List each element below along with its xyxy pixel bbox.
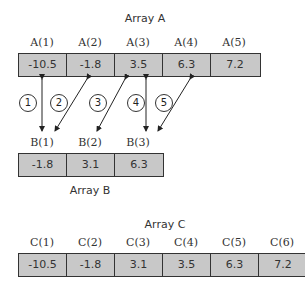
index-label: B(1)	[18, 136, 66, 149]
index-label: B(3)	[114, 136, 162, 149]
index-label: B(2)	[66, 136, 114, 149]
index-label: C(6)	[258, 236, 305, 249]
array-b: -1.8 3.1 6.3	[18, 153, 164, 177]
array-cell: -1.8	[19, 154, 67, 176]
step-marker: 1	[19, 94, 37, 112]
array-cell: -1.8	[67, 254, 115, 276]
array-c-indices: C(1) C(2) C(3) C(4) C(5) C(6)	[18, 236, 305, 249]
array-c: -10.5 -1.8 3.1 3.5 6.3 7.2	[18, 253, 305, 277]
array-b-title: Array B	[50, 184, 130, 197]
array-cell: 3.1	[67, 154, 115, 176]
array-cell: 3.5	[163, 254, 211, 276]
array-cell: -10.5	[19, 254, 67, 276]
array-cell: 7.2	[259, 254, 305, 276]
index-label: C(3)	[114, 236, 162, 249]
index-label: C(1)	[18, 236, 66, 249]
index-label: C(2)	[66, 236, 114, 249]
step-marker: 4	[127, 94, 145, 112]
array-cell: 3.1	[115, 254, 163, 276]
array-cell: 6.3	[211, 254, 259, 276]
step-marker: 2	[50, 94, 68, 112]
index-label: C(5)	[210, 236, 258, 249]
array-cell: 6.3	[115, 154, 163, 176]
step-marker: 5	[155, 94, 173, 112]
step-marker: 3	[89, 94, 107, 112]
array-c-title: Array C	[125, 218, 205, 231]
array-b-indices: B(1) B(2) B(3)	[18, 136, 162, 149]
index-label: C(4)	[162, 236, 210, 249]
